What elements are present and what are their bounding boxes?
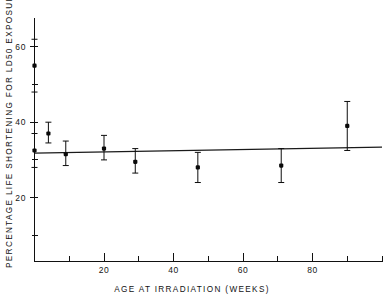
data-points-layer <box>32 39 351 182</box>
data-point-marker <box>196 165 200 169</box>
x-tick-label-60: 60 <box>238 265 249 275</box>
data-point-marker <box>64 152 68 156</box>
y-tick-label-20: 20 <box>15 193 26 203</box>
data-point-group <box>101 135 107 160</box>
data-point-marker <box>345 124 349 128</box>
data-point-group <box>63 141 69 166</box>
data-point-group <box>195 152 201 182</box>
data-point-group <box>278 149 284 183</box>
y-tick-label-60: 60 <box>15 42 26 52</box>
scatter-plot-svg: PERCENTAGE LIFE SHORTENING FOR LD50 EXPO… <box>0 0 386 305</box>
data-point-marker <box>32 64 36 68</box>
data-point-marker <box>133 160 137 164</box>
x-tick-label-80: 80 <box>307 265 318 275</box>
axes-group <box>35 18 384 262</box>
y-axis-tick-labels: 60 40 20 <box>15 42 26 203</box>
chart-figure: PERCENTAGE LIFE SHORTENING FOR LD50 EXPO… <box>0 0 386 305</box>
y-axis-label: PERCENTAGE LIFE SHORTENING FOR LD50 EXPO… <box>5 0 14 268</box>
data-point-group <box>32 134 38 168</box>
x-axis-ticks <box>69 253 382 262</box>
data-point-group <box>132 149 138 174</box>
data-point-marker <box>279 163 283 167</box>
y-tick-label-40: 40 <box>15 117 26 127</box>
x-axis-tick-labels: 20 40 60 80 <box>99 265 318 275</box>
data-point-marker <box>102 146 106 150</box>
data-point-marker <box>46 131 50 135</box>
x-tick-label-20: 20 <box>99 265 110 275</box>
regression-line <box>35 147 383 153</box>
fit-line-group <box>35 147 383 153</box>
data-point-group <box>344 101 350 150</box>
x-axis-label: AGE AT IRRADIATION (WEEKS) <box>114 285 270 294</box>
x-tick-label-40: 40 <box>168 265 179 275</box>
data-point-marker <box>32 148 36 152</box>
data-point-group <box>45 122 51 143</box>
